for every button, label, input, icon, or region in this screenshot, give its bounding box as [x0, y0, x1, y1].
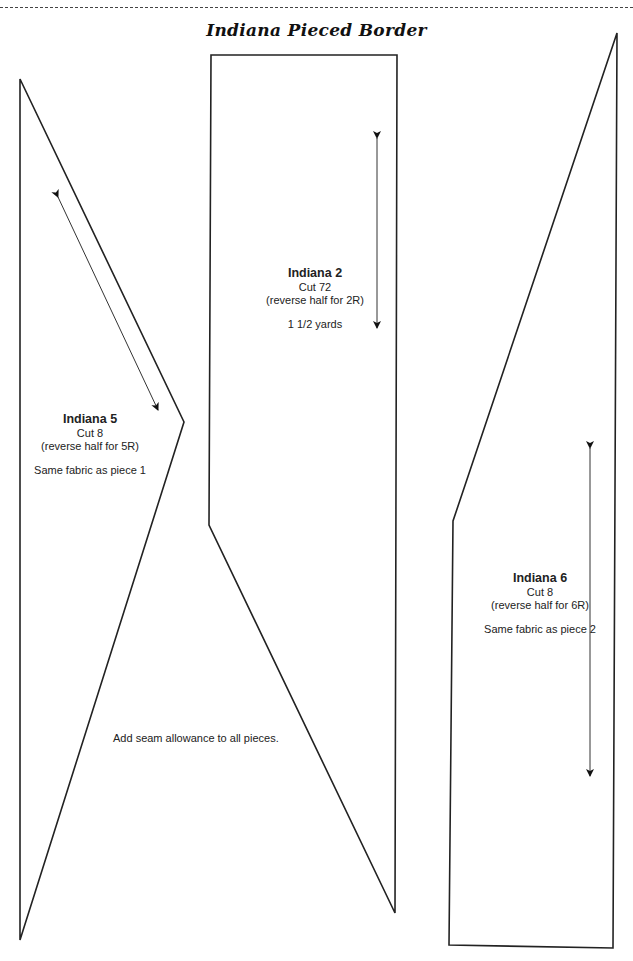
piece-extra: Same fabric as piece 2 — [470, 623, 610, 636]
piece-name: Indiana 6 — [470, 571, 610, 586]
piece-name: Indiana 5 — [20, 412, 160, 427]
piece-name: Indiana 2 — [245, 266, 385, 281]
piece-reverse: (reverse half for 5R) — [20, 440, 160, 453]
piece-cut: Cut 72 — [245, 281, 385, 294]
piece-reverse: (reverse half for 6R) — [470, 599, 610, 612]
piece-cut: Cut 8 — [470, 586, 610, 599]
piece-extra: 1 1/2 yards — [245, 318, 385, 331]
piece-label-indiana-6: Indiana 6 Cut 8 (reverse half for 6R) Sa… — [470, 571, 610, 636]
piece-label-indiana-5: Indiana 5 Cut 8 (reverse half for 5R) Sa… — [20, 412, 160, 477]
piece-cut: Cut 8 — [20, 427, 160, 440]
piece-label-indiana-2: Indiana 2 Cut 72 (reverse half for 2R) 1… — [245, 266, 385, 331]
piece-extra: Same fabric as piece 1 — [20, 464, 160, 477]
piece-reverse: (reverse half for 2R) — [245, 294, 385, 307]
seam-allowance-note: Add seam allowance to all pieces. — [113, 732, 279, 744]
piece-outline-indiana-6 — [449, 33, 617, 948]
pattern-pieces — [0, 0, 633, 961]
piece-outline-indiana-2 — [209, 55, 397, 913]
grainline-arrow-icon — [58, 197, 158, 410]
piece-outline-indiana-5 — [20, 79, 184, 940]
